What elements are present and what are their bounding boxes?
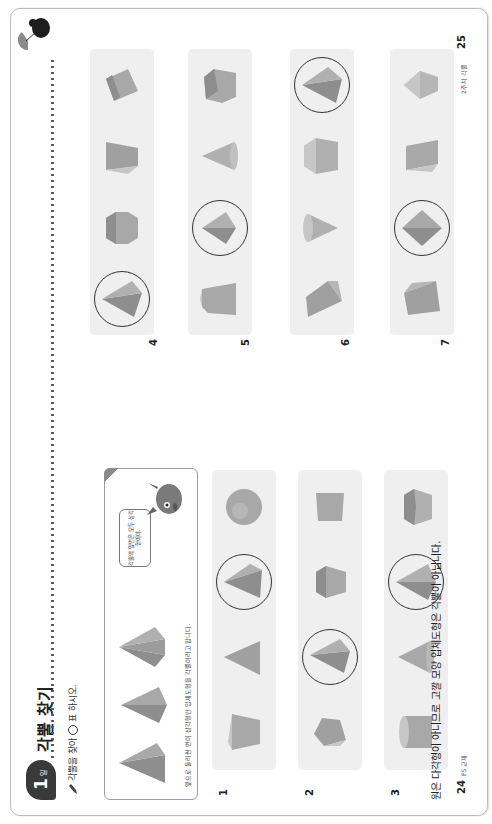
pencil-icon (69, 784, 77, 794)
umbrella-mascot-icon (14, 14, 54, 54)
question-row-5 (188, 49, 252, 335)
example-caption: 옆으로 둘러싼 면이 삼각형인 입체도형을 각뿔이라고 합니다. (183, 624, 192, 787)
shape-option[interactable] (394, 57, 450, 113)
shape-option[interactable] (216, 705, 272, 761)
shape-option-circled[interactable] (192, 200, 248, 256)
circle-mark-icon (68, 725, 78, 735)
dotted-divider (51, 60, 54, 760)
question-row-7 (390, 49, 454, 335)
row-label-1: 1 (218, 789, 229, 796)
row-label-2: 2 (304, 789, 315, 796)
corner-fold (104, 468, 118, 482)
shape-option-circled[interactable] (394, 200, 450, 256)
question-row-2 (298, 470, 362, 770)
row-label-6: 6 (340, 339, 351, 346)
question-row-6 (290, 49, 354, 335)
shape-option[interactable] (94, 57, 150, 113)
example-shapes (115, 625, 171, 785)
shape-option-circled[interactable] (302, 630, 358, 686)
shape-option[interactable] (302, 555, 358, 611)
workbook-spread: 1 일 각뿔 찾기 각뿔을 찾아 표 하시오. (0, 0, 492, 824)
day-number: 1 (31, 778, 51, 790)
shape-option[interactable] (94, 128, 150, 184)
shape-option[interactable] (216, 480, 272, 536)
row-label-7: 7 (440, 339, 451, 346)
right-page-meta: 2주차 각뿔 (459, 64, 468, 94)
triangular-pyramid-icon (115, 741, 171, 785)
shape-option[interactable] (192, 57, 248, 113)
instruction-text-post: 표 하시오. (66, 684, 79, 722)
shape-option-circled[interactable] (216, 555, 272, 611)
instruction: 각뿔을 찾아 표 하시오. (66, 684, 79, 794)
question-row-1 (212, 470, 276, 770)
shape-option[interactable] (294, 200, 350, 256)
shape-option[interactable] (294, 271, 350, 327)
question-row-4 (90, 49, 154, 335)
day-badge: 1 일 (26, 760, 56, 800)
day-unit: 일 (38, 770, 48, 776)
left-page-meta: FS 교재 (459, 755, 468, 776)
right-page-number: 25 (456, 35, 467, 49)
row-label-4: 4 (148, 339, 159, 346)
shape-option[interactable] (216, 630, 272, 686)
shape-option[interactable] (394, 271, 450, 327)
instruction-text-pre: 각뿔을 찾아 (66, 738, 79, 781)
pentagonal-pyramid-icon (115, 625, 171, 669)
shape-option-circled[interactable] (94, 271, 150, 327)
shape-option[interactable] (94, 200, 150, 256)
row-label-3: 3 (390, 789, 401, 796)
shape-option[interactable] (294, 128, 350, 184)
row-label-5: 5 (240, 339, 251, 346)
example-box: 옆으로 둘러싼 면이 삼각형인 입체도형을 각뿔이라고 합니다. 각뿔의 옆면은… (104, 468, 198, 800)
viewport: 1 일 각뿔 찾기 각뿔을 찾아 표 하시오. (0, 0, 492, 824)
shape-option[interactable] (192, 128, 248, 184)
shape-option-circled[interactable] (294, 57, 350, 113)
shape-option[interactable] (302, 480, 358, 536)
shape-option[interactable] (388, 480, 444, 536)
shape-option[interactable] (394, 128, 450, 184)
shape-option[interactable] (192, 271, 248, 327)
left-page-number: 24 (456, 780, 467, 794)
shape-option[interactable] (302, 705, 358, 761)
monster-character-icon (145, 479, 185, 523)
footnote: 원은 다각형이 아니므로 고깔 모양 입체도형은 각뿔이 아닙니다. (428, 541, 443, 800)
square-pyramid-icon (115, 683, 171, 727)
